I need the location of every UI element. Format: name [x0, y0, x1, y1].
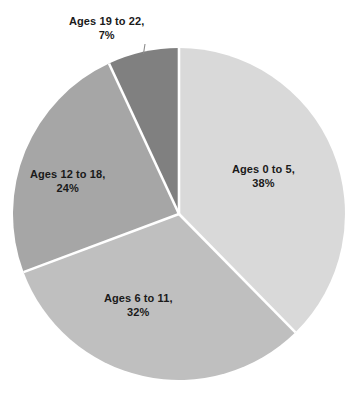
pie-label-name: Ages 12 to 18,	[30, 167, 105, 181]
pie-label-name: Ages 0 to 5,	[232, 162, 295, 176]
pie-label-percent: 7%	[69, 28, 144, 42]
pie-label-ages-19-to-22: Ages 19 to 22, 7%	[69, 14, 144, 42]
pie-label-percent: 38%	[232, 176, 295, 190]
pie-chart-canvas	[0, 0, 359, 396]
pie-label-name: Ages 19 to 22,	[69, 14, 144, 28]
pie-label-percent: 32%	[104, 305, 173, 319]
pie-chart: Ages 0 to 5, 38% Ages 6 to 11, 32% Ages …	[0, 0, 359, 396]
pie-label-ages-0-to-5: Ages 0 to 5, 38%	[232, 162, 295, 190]
pie-label-ages-12-to-18: Ages 12 to 18, 24%	[30, 167, 105, 195]
pie-label-percent: 24%	[30, 181, 105, 195]
pie-label-ages-6-to-11: Ages 6 to 11, 32%	[104, 291, 173, 319]
pie-label-name: Ages 6 to 11,	[104, 291, 173, 305]
